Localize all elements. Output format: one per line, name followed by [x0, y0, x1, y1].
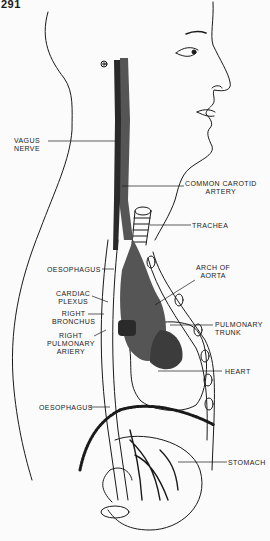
label-trachea: TRACHEA [192, 222, 228, 230]
label-oesophagus-lower: OESOPHAGUS [39, 404, 93, 412]
eyebrow [186, 32, 206, 34]
label-vagus-nerve: VAGUS NERVE [14, 137, 40, 153]
label-arch-of-aorta: ARCH OF AORTA [196, 264, 230, 280]
vessels [113, 58, 183, 369]
label-right-bronchus: RIGHT BRONCHUS [52, 310, 95, 326]
label-heart: HEART [225, 368, 251, 376]
label-common-carotid-artery: COMMON CAROTID ARTERY [185, 180, 257, 196]
label-oesophagus-upper: OESOPHAGUS [47, 266, 101, 274]
oesophagus-tube [101, 240, 118, 500]
label-stomach: STOMACH [228, 459, 266, 467]
trachea-rings [132, 207, 151, 245]
face-profile [155, 2, 230, 240]
vagus-trunk [113, 60, 121, 250]
label-right-pulmonary-artery: RIGHT PULMONARY ARIERY [47, 332, 95, 356]
diaphragm [120, 406, 214, 425]
stomach-outline [108, 436, 202, 530]
label-cardiac-plexus: CARDIAC PLEXUS [56, 290, 90, 306]
label-pulmonary-trunk: PULMONARY TRUNK [215, 321, 263, 337]
